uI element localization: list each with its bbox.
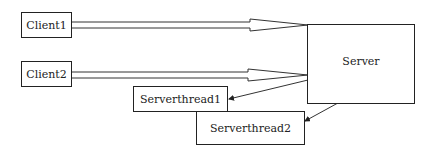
node-client2-label: Client2 — [26, 68, 66, 81]
node-server: Server — [307, 24, 415, 104]
node-serverthread1: Serverthread1 — [133, 86, 228, 112]
node-serverthread1-label: Serverthread1 — [140, 93, 221, 106]
edge-client1-to-server — [72, 19, 308, 31]
edge-client2-to-server — [72, 69, 308, 81]
node-server-label: Server — [308, 55, 414, 68]
node-client1-label: Client1 — [26, 19, 66, 32]
node-client1: Client1 — [21, 12, 72, 38]
node-serverthread2: Serverthread2 — [196, 111, 305, 145]
edge-server-to-serverthread1 — [229, 80, 308, 99]
node-serverthread2-label: Serverthread2 — [210, 122, 291, 135]
node-client2: Client2 — [21, 61, 72, 87]
